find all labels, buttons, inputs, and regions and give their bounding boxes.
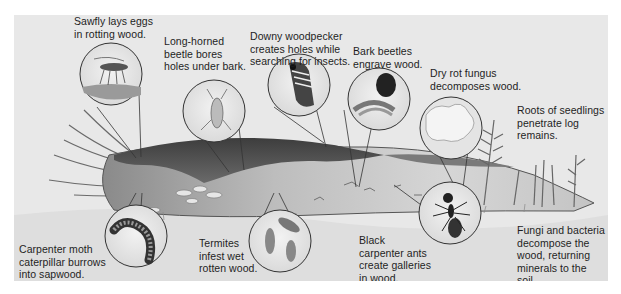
label-dry-rot-fungus: Dry rot fungus decomposes wood. [430,67,521,92]
label-termites: Termites infest wet rotten wood. [199,237,257,275]
label-roots-of-seedlings: Roots of seedlings penetrate log remains… [517,104,604,142]
bark-beetle-icon [348,68,410,130]
label-black-carpenter-ants: Black carpenter ants create galleries in… [359,234,431,281]
label-long-horned-beetle: Long-horned beetle bores holes under bar… [164,35,246,73]
label-fungi-and-bacteria: Fungi and bacteria decompose the wood, r… [517,224,608,281]
label-bark-beetles: Bark beetles engrave wood. [353,45,423,70]
long-horned-beetle-icon [183,80,245,142]
label-carpenter-moth: Carpenter moth caterpillar burrows into … [19,243,106,281]
sawfly-icon [80,43,142,105]
caterpillar-icon [105,205,167,267]
dry-rot-fungus-icon [420,97,482,159]
termite-icon [249,210,311,272]
label-downy-woodpecker: Downy woodpecker creates holes while sea… [250,30,350,68]
illustration-panel: Sawfly lays eggs in rotting wood. Long-h… [14,15,608,281]
label-sawfly: Sawfly lays eggs in rotting wood. [74,15,153,40]
